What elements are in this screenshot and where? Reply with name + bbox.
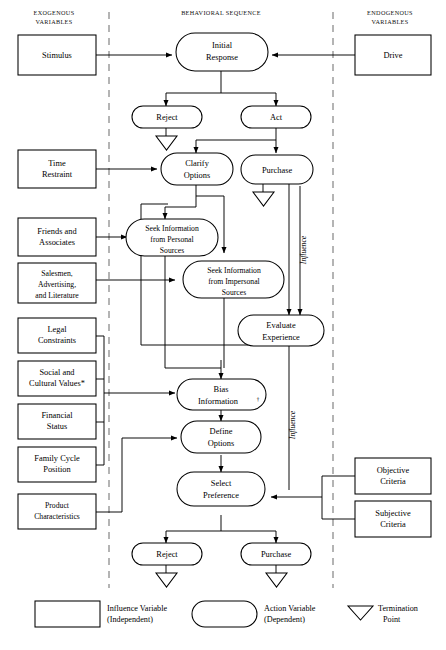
box-time-restraint-shape <box>18 150 96 188</box>
node-act[interactable]: Act <box>241 106 311 128</box>
node-seek-impersonal-line1: Seek Information <box>207 266 261 275</box>
node-clarify-options[interactable]: Clarify Options <box>161 153 233 185</box>
header-exogenous-line2: VARIABLES <box>35 18 72 25</box>
box-product-characteristics[interactable]: Product Characteristics <box>18 494 96 529</box>
legend-termination-point-line1: Termination <box>378 604 418 613</box>
box-family-cycle-line1: Family Cycle <box>34 454 80 463</box>
box-salesmen-line1: Salesmen, <box>41 269 72 278</box>
box-objective-criteria-shape <box>355 458 431 494</box>
node-bias-information-line2: Information <box>198 397 239 406</box>
box-financial-status[interactable]: Financial Status <box>18 404 96 439</box>
node-purchase-bottom[interactable]: Purchase <box>241 543 311 565</box>
node-clarify-options-shape <box>161 153 233 185</box>
node-evaluate-experience-line1: Evaluate <box>266 321 296 330</box>
box-objective-criteria-line2: Criteria <box>380 477 406 486</box>
box-friends-associates-shape <box>18 218 96 256</box>
node-reject-top[interactable]: Reject <box>132 106 202 128</box>
box-product-characteristics-line2: Characteristics <box>34 512 80 521</box>
box-social-cultural-values[interactable]: Social and Cultural Values* <box>18 361 96 396</box>
node-evaluate-experience-line2: Experience <box>262 333 300 342</box>
box-financial-status-line1: Financial <box>41 411 73 420</box>
box-friends-associates-line1: Friends and <box>37 227 77 236</box>
influence-label-upper-text: Influence <box>299 235 308 265</box>
node-reject-bottom[interactable]: Reject <box>132 543 202 565</box>
legend-influence-variable-line2: (Independent) <box>107 615 153 624</box>
legend-action-variable-line1: Action Variable <box>264 604 316 613</box>
node-define-options-shape <box>181 421 261 453</box>
box-subjective-criteria-line1: Subjective <box>375 509 411 518</box>
influence-label-lower-text: Influence <box>288 410 297 440</box>
node-reject-top-label: Reject <box>156 113 178 122</box>
box-time-restraint-line2: Restraint <box>42 170 73 179</box>
node-bias-information-dagger: † <box>257 396 260 402</box>
header-endogenous-line2: VARIABLES <box>371 18 408 25</box>
box-social-values-line1: Social and <box>39 368 75 377</box>
node-define-options-line2: Options <box>208 439 235 448</box>
node-initial-response-line1: Initial <box>212 41 233 50</box>
box-stimulus-label: Stimulus <box>42 51 72 60</box>
node-seek-personal-line2: from Personal <box>150 235 193 244</box>
box-legal-constraints[interactable]: Legal Constraints <box>18 318 96 353</box>
box-family-cycle-position[interactable]: Family Cycle Position <box>18 447 96 482</box>
header-behavioral-sequence: BEHAVIORAL SEQUENCE <box>181 9 261 16</box>
node-bias-information[interactable]: Bias Information † <box>177 379 266 410</box>
influence-label-lower: Influence <box>288 410 297 440</box>
node-seek-impersonal-line3: Sources <box>222 288 246 297</box>
box-subjective-criteria-line2: Criteria <box>380 520 406 529</box>
box-salesmen-line3: and Literature <box>35 291 79 300</box>
behavioral-sequence-flowchart: EXOGENOUS VARIABLES BEHAVIORAL SEQUENCE … <box>0 0 446 650</box>
legend-termination-point-line2: Point <box>383 615 401 624</box>
header-exogenous-line1: EXOGENOUS <box>34 9 75 16</box>
node-act-label: Act <box>270 113 283 122</box>
box-stimulus[interactable]: Stimulus <box>18 35 96 75</box>
node-select-preference-shape <box>177 472 265 506</box>
node-define-options-line1: Define <box>210 427 233 436</box>
node-seek-impersonal-line2: from Impersonal <box>208 277 259 286</box>
node-select-preference[interactable]: Select Preference <box>177 472 265 506</box>
legend-oval-swatch <box>192 601 257 627</box>
box-product-characteristics-line1: Product <box>45 501 70 510</box>
node-clarify-options-line2: Options <box>184 171 211 180</box>
box-salesmen-advertising[interactable]: Salesmen, Advertising, and Literature <box>18 263 96 303</box>
box-objective-criteria-line1: Objective <box>377 466 410 475</box>
node-initial-response-line2: Response <box>206 53 238 62</box>
box-legal-constraints-line2: Constraints <box>38 336 76 345</box>
legend-influence-variable-line1: Influence Variable <box>107 604 167 613</box>
node-initial-response[interactable]: Initial Response <box>176 33 268 71</box>
box-financial-status-line2: Status <box>47 422 67 431</box>
node-initial-response-shape <box>176 33 268 71</box>
legend-rect-swatch <box>35 601 100 627</box>
node-seek-personal[interactable]: Seek Information from Personal Sources <box>126 219 218 256</box>
node-seek-impersonal[interactable]: Seek Information from Impersonal Sources <box>183 261 284 298</box>
node-select-preference-line1: Select <box>211 479 232 488</box>
box-friends-associates[interactable]: Friends and Associates <box>18 218 96 256</box>
box-subjective-criteria-shape <box>355 501 431 537</box>
box-drive-label: Drive <box>383 51 402 60</box>
box-time-restraint-line1: Time <box>48 159 66 168</box>
influence-label-upper: Influence <box>299 235 308 265</box>
legend-action-variable-line2: (Dependent) <box>264 615 305 624</box>
box-friends-associates-line2: Associates <box>39 238 75 247</box>
node-purchase-bottom-label: Purchase <box>261 550 292 559</box>
node-purchase-top-label: Purchase <box>262 166 293 175</box>
node-purchase-top[interactable]: Purchase <box>241 155 313 184</box>
node-select-preference-line2: Preference <box>203 491 239 500</box>
node-bias-information-line1: Bias <box>214 385 229 394</box>
node-evaluate-experience[interactable]: Evaluate Experience <box>238 315 324 346</box>
node-clarify-options-line1: Clarify <box>185 159 210 168</box>
box-legal-constraints-line1: Legal <box>47 325 67 334</box>
node-seek-personal-line3: Sources <box>160 246 184 255</box>
box-family-cycle-line2: Position <box>43 465 71 474</box>
node-reject-bottom-label: Reject <box>156 550 178 559</box>
box-time-restraint[interactable]: Time Restraint <box>18 150 96 188</box>
box-subjective-criteria[interactable]: Subjective Criteria <box>355 501 431 537</box>
box-salesmen-line2: Advertising, <box>38 280 76 289</box>
node-define-options[interactable]: Define Options <box>181 421 261 453</box>
node-seek-personal-line1: Seek Information <box>145 224 199 233</box>
box-objective-criteria[interactable]: Objective Criteria <box>355 458 431 494</box>
box-social-values-line2: Cultural Values* <box>29 379 85 388</box>
box-drive[interactable]: Drive <box>355 35 431 75</box>
header-endogenous-line1: ENDOGENOUS <box>367 9 413 16</box>
